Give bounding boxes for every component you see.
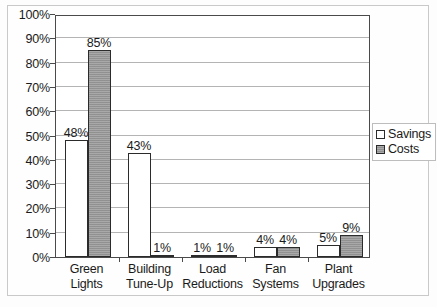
bar-group-bars: 48%85% — [56, 14, 119, 257]
x-axis-category-label-line: Green — [55, 262, 118, 277]
chart-legend: Savings Costs — [372, 123, 436, 161]
bar-value-label: 48% — [64, 126, 88, 140]
bar-value-label: 43% — [127, 139, 151, 153]
x-axis-category-label: LoadReductions — [181, 262, 244, 292]
bar-value-label: 5% — [319, 231, 337, 245]
x-axis-category-label-line: Plant — [307, 262, 370, 277]
x-axis-category-label: FanSystems — [244, 262, 307, 292]
bar-value-label: 9% — [342, 221, 360, 235]
bar-costs-plant-upgrades: 9% — [340, 235, 363, 257]
bar-value-label: 1% — [153, 241, 171, 255]
bar-savings-plant-upgrades: 5% — [317, 245, 340, 257]
plot-area: 48%85%43%1%1%1%4%4%5%9% — [55, 15, 370, 258]
x-axis-category-label-line: Fan — [244, 262, 307, 277]
bar-value-label: 1% — [193, 241, 211, 255]
x-axis-category-labels: GreenLightsBuildingTune-UpLoadReductions… — [55, 262, 370, 304]
bar-group: 48%85% — [56, 14, 119, 257]
bar-group-bars: 4%4% — [245, 14, 308, 257]
legend-item-savings: Savings — [376, 127, 431, 142]
legend-swatch-savings-icon — [376, 130, 385, 139]
bar-group-bars: 1%1% — [182, 14, 245, 257]
x-axis-category-label: BuildingTune-Up — [118, 262, 181, 292]
x-axis-category-label-line: Building — [118, 262, 181, 277]
x-axis-category-label-line: Lights — [55, 277, 118, 292]
bar-group: 4%4% — [245, 14, 308, 257]
legend-swatch-costs-icon — [376, 145, 385, 154]
bar-chart-figure: 0%10%20%30%40%50%60%70%80%90%100% 48%85%… — [0, 0, 437, 307]
bar-value-label: 85% — [87, 36, 111, 50]
bar-value-label: 1% — [216, 241, 234, 255]
bar-group: 1%1% — [182, 14, 245, 257]
bar-value-label: 4% — [279, 233, 297, 247]
bar-group: 5%9% — [308, 14, 371, 257]
x-axis-category-label-line: Systems — [244, 277, 307, 292]
bar-group-bars: 5%9% — [308, 14, 371, 257]
bar-group: 43%1% — [119, 14, 182, 257]
x-axis-category-label: PlantUpgrades — [307, 262, 370, 292]
bar-savings-fan-systems: 4% — [254, 247, 277, 257]
x-axis-category-label-line: Reductions — [181, 277, 244, 292]
bar-savings-green-lights: 48% — [65, 140, 88, 257]
bar-savings-load-reductions: 1% — [191, 255, 214, 258]
bar-value-label: 4% — [256, 233, 274, 247]
x-axis-category-label-line: Load — [181, 262, 244, 277]
x-axis-category-label: GreenLights — [55, 262, 118, 292]
bar-savings-building-tune-up: 43% — [128, 153, 151, 257]
legend-item-costs: Costs — [376, 142, 431, 157]
x-axis-category-label-line: Tune-Up — [118, 277, 181, 292]
legend-label-savings: Savings — [388, 128, 431, 141]
bar-costs-fan-systems: 4% — [277, 247, 300, 257]
bar-costs-green-lights: 85% — [88, 50, 111, 257]
bar-group-bars: 43%1% — [119, 14, 182, 257]
bar-costs-building-tune-up: 1% — [151, 255, 174, 258]
y-axis-tick-marks — [0, 15, 56, 258]
legend-label-costs: Costs — [388, 143, 419, 156]
x-axis-category-label-line: Upgrades — [307, 277, 370, 292]
bar-costs-load-reductions: 1% — [214, 255, 237, 258]
